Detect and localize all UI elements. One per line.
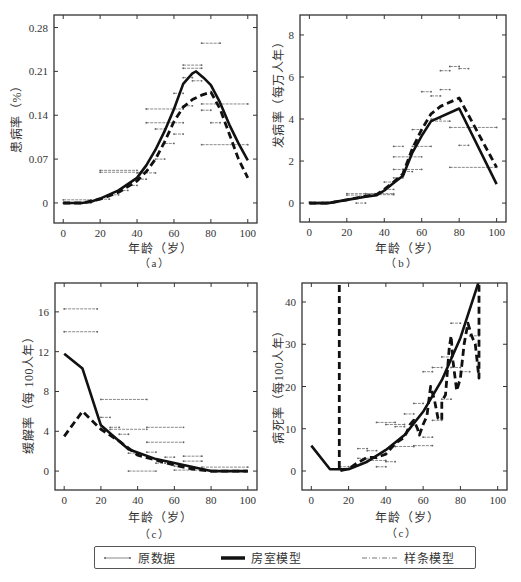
y-tick-label: 8	[44, 385, 50, 397]
segment-end-marker	[411, 171, 413, 173]
legend-item-compartment-model: 房室模型	[220, 547, 301, 568]
segment-end-marker	[393, 169, 395, 171]
segment-end-marker	[460, 322, 462, 324]
segment-end-marker	[182, 122, 184, 124]
segment-end-marker	[413, 445, 415, 447]
segment-end-marker	[450, 398, 452, 400]
x-tick-label: 100	[488, 226, 505, 238]
segment-end-marker	[432, 367, 434, 369]
x-tick-label: 60	[418, 494, 430, 506]
x-tick-label: 60	[168, 227, 180, 239]
segment-end-marker	[155, 451, 157, 453]
panel-c-y-axis-title: 缓解率（每 100人年）	[19, 331, 37, 454]
panel-b-incidence: 02040608010002468	[289, 15, 507, 238]
segment-end-marker	[173, 143, 175, 145]
spline-model-line	[64, 411, 248, 471]
segment-end-marker	[183, 441, 185, 443]
segment-end-marker	[146, 451, 148, 453]
segment-end-marker	[376, 466, 378, 468]
segment-end-marker	[100, 416, 102, 418]
segment-end-marker	[136, 185, 138, 187]
x-tick-label: 100	[240, 494, 257, 506]
segment-end-marker	[145, 178, 147, 180]
segment-end-marker	[430, 95, 432, 97]
segment-end-marker	[210, 122, 212, 124]
segment-end-marker	[421, 169, 423, 171]
segment-end-marker	[155, 172, 157, 174]
x-tick-label: 0	[307, 226, 313, 238]
segment-end-marker	[182, 133, 184, 135]
segment-end-marker	[128, 470, 130, 472]
segment-end-marker	[146, 426, 148, 428]
segment-end-marker	[402, 145, 404, 147]
x-tick-label: 60	[169, 494, 181, 506]
x-tick-label: 100	[240, 227, 257, 239]
x-tick-label: 40	[132, 494, 144, 506]
segment-end-marker	[182, 92, 184, 94]
x-tick-label: 40	[132, 227, 144, 239]
segment-end-marker	[365, 193, 367, 195]
x-tick-label: 100	[489, 494, 506, 506]
raw-data-line-icon	[103, 554, 133, 562]
segment-end-marker	[109, 426, 111, 428]
segment-end-marker	[201, 42, 203, 44]
x-tick-label: 40	[380, 494, 392, 506]
y-tick-label: 4	[289, 113, 295, 125]
x-tick-label: 60	[416, 226, 428, 238]
segment-end-marker	[201, 109, 203, 111]
x-tick-label: 20	[95, 494, 107, 506]
segment-end-marker	[155, 462, 157, 464]
segment-end-marker	[155, 158, 157, 160]
x-tick-label: 40	[379, 226, 391, 238]
segment-end-marker	[173, 465, 175, 467]
segment-end-marker	[458, 66, 460, 68]
segment-end-marker	[201, 455, 203, 457]
segment-end-marker	[394, 422, 396, 424]
panel-c2-caption: （c）	[386, 524, 419, 540]
segment-end-marker	[430, 145, 432, 147]
segment-end-marker	[432, 419, 434, 421]
segment-end-marker	[404, 426, 406, 428]
x-tick-label: 80	[206, 494, 218, 506]
segment-end-marker	[376, 422, 378, 424]
x-tick-label: 20	[343, 494, 355, 506]
panel-c2-y-axis-title: 病死率（每100人年）	[269, 324, 287, 444]
segment-end-marker	[201, 460, 203, 462]
segment-end-marker	[441, 367, 443, 369]
segment-end-marker	[136, 172, 138, 174]
segment-end-marker	[164, 158, 166, 160]
plot-area	[63, 308, 248, 472]
segment-end-marker	[183, 460, 185, 462]
spline-model-line	[339, 285, 479, 471]
x-tick-label: 0	[60, 227, 66, 239]
segment-end-marker	[496, 127, 498, 129]
segment-end-marker	[393, 194, 395, 196]
segment-end-marker	[346, 194, 348, 196]
plot-area	[311, 281, 480, 471]
legend-label-raw-data: 原数据	[138, 549, 176, 567]
y-tick-label: 40	[285, 296, 297, 308]
segment-end-marker	[385, 461, 387, 463]
segment-end-marker	[146, 441, 148, 443]
segment-end-marker	[440, 95, 442, 97]
segment-end-marker	[63, 331, 65, 333]
segment-end-marker	[192, 105, 194, 107]
segment-end-marker	[108, 198, 110, 200]
segment-end-marker	[432, 445, 434, 447]
segment-end-marker	[441, 356, 443, 358]
segment-end-marker	[201, 80, 203, 82]
segment-end-marker	[173, 92, 175, 94]
segment-end-marker	[173, 469, 175, 471]
y-tick-label: 2	[289, 155, 295, 167]
segment-end-marker	[411, 129, 413, 131]
segment-end-marker	[450, 367, 452, 369]
segment-end-marker	[365, 202, 367, 204]
segment-end-marker	[383, 181, 385, 183]
segment-end-marker	[449, 66, 451, 68]
segment-end-marker	[376, 450, 378, 452]
segment-end-marker	[62, 199, 64, 201]
segment-end-marker	[413, 413, 415, 415]
segment-end-marker	[421, 91, 423, 93]
segment-end-marker	[247, 144, 249, 146]
y-tick-label: 0	[43, 197, 49, 209]
